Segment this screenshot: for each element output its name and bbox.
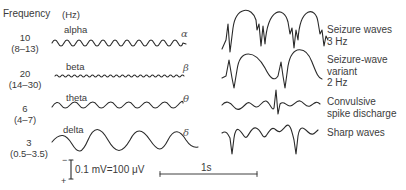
scale-plus-sign: + xyxy=(61,176,66,187)
beta-wave xyxy=(55,75,184,77)
seizure-variant-label-2: variant xyxy=(327,66,357,78)
seizure-waves-label-1: Seizure waves xyxy=(327,24,392,36)
seizure-variant-label-3: 2 Hz xyxy=(327,77,348,89)
theta-wave xyxy=(52,101,183,108)
sharp-waves-trace xyxy=(222,125,318,154)
seizure-waves-trace xyxy=(222,10,328,52)
seizure-variant-trace xyxy=(222,50,322,88)
seizure-waves-label-2: 3 Hz xyxy=(327,36,348,48)
scale-minus-sign: − xyxy=(62,155,67,166)
alpha-wave xyxy=(52,40,186,46)
convulsive-label-1: Convulsive xyxy=(327,96,376,108)
convulsive-label-2: spike discharge xyxy=(327,108,396,120)
seizure-variant-label-1: Seizure-wave xyxy=(327,54,388,66)
convulsive-spike-trace xyxy=(222,90,320,114)
voltage-scale-label: 0.1 mV=100 μV xyxy=(75,164,144,175)
sharp-waves-label: Sharp waves xyxy=(327,127,385,139)
delta-wave xyxy=(52,130,198,152)
time-scale-label: 1s xyxy=(201,162,212,173)
voltage-scale-bar xyxy=(69,160,73,179)
